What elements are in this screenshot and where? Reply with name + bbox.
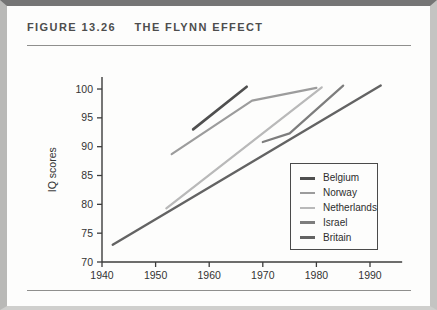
x-tick-label: 1940 [90,269,114,281]
legend-item-britain: Britain [300,230,377,245]
figure-header: FIGURE 13.26 THE FLYNN EFFECT [27,21,263,33]
figure-label: FIGURE 13.26 [27,21,116,33]
legend-label: Netherlands [323,203,377,213]
legend-line-swatch [300,221,315,224]
y-tick-label: 75 [81,227,93,239]
y-tick-label: 95 [81,111,93,123]
y-tick-label: 85 [81,169,93,181]
footer-divider [27,290,411,291]
legend-item-israel: Israel [300,215,377,230]
legend-label: Israel [323,218,347,228]
x-tick-label: 1980 [305,269,329,281]
legend-line-swatch [300,207,315,210]
legend-line-swatch [300,236,315,239]
y-tick-label: 90 [81,140,93,152]
x-tick-label: 1970 [251,269,275,281]
y-tick-label: 70 [81,256,93,268]
legend-label: Norway [323,188,357,198]
legend-item-netherlands: Netherlands [300,201,377,216]
header-divider [27,45,411,46]
legend-line-swatch [300,177,315,180]
legend-line-swatch [300,192,315,195]
legend-item-norway: Norway [300,186,377,201]
series-line-norway [172,88,317,154]
x-tick-label: 1990 [358,269,382,281]
legend-item-belgium: Belgium [300,171,377,186]
figure-card: FIGURE 13.26 THE FLYNN EFFECT 7075808590… [0,0,437,310]
y-tick-label: 80 [81,198,93,210]
x-tick-label: 1960 [198,269,222,281]
legend-label: Britain [323,233,351,243]
chart-legend: BelgiumNorwayNetherlandsIsraelBritain [290,163,378,250]
figure-title: THE FLYNN EFFECT [134,21,263,33]
y-tick-label: 100 [75,83,93,95]
x-tick-label: 1950 [144,269,168,281]
y-axis-label: IQ scores [46,147,58,192]
legend-label: Belgium [323,173,359,183]
